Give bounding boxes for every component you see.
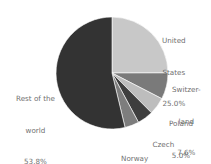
label-norway: Norway 4.1% [121,133,148,164]
label-czech-republic: Czech Republic 4.6% [148,119,179,164]
label-rest-of-world: Rest of the world 53.8% [16,73,55,164]
pie-slice-united-states [112,17,168,73]
